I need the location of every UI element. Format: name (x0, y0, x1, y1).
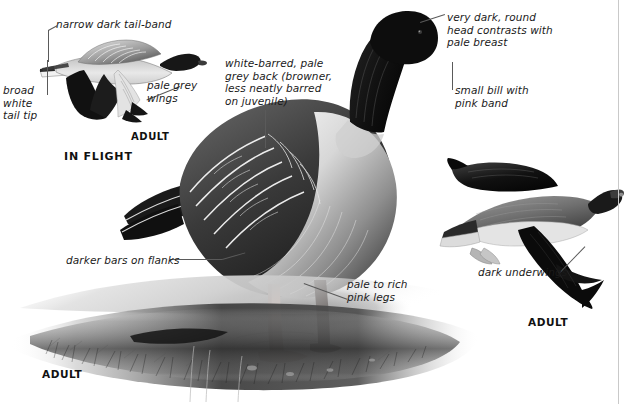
callout-pale-to-rich-pink-legs: pale to rich pink legs (347, 278, 408, 303)
caption-in-flight-heading: IN FLIGHT (64, 150, 133, 163)
caption-adult-standing: ADULT (42, 368, 82, 380)
callout-dark-underwings: dark underwings (478, 266, 567, 279)
field-guide-plate: narrow dark tail-band broad white tail t… (0, 0, 631, 404)
callout-small-bill-with-pink-band: small bill with pink band (455, 84, 529, 109)
leader-small-bill-pink-band (452, 62, 453, 90)
callout-broad-white-tail-tip: broad white tail tip (3, 84, 37, 122)
callout-white-barred-pale-grey-back: white-barred, pale grey back (browner, l… (225, 57, 332, 107)
leader-white-barred-back (265, 110, 266, 148)
leader-broad-white-tail-tip (47, 60, 48, 95)
figure-flying-goose-lower-right (438, 152, 624, 310)
caption-adult-in-flight-right: ADULT (528, 316, 568, 328)
callout-pale-grey-wings: pale grey wings (147, 79, 197, 104)
caption-adult-in-flight-left: ADULT (131, 131, 169, 142)
callout-very-dark-round-head: very dark, round head contrasts with pal… (447, 11, 553, 49)
callout-darker-bars-on-flanks: darker bars on flanks (66, 254, 180, 267)
leader-narrow-dark-tail-band (48, 30, 49, 62)
page-rule-right (618, 0, 619, 404)
callout-narrow-dark-tail-band: narrow dark tail-band (56, 18, 172, 31)
